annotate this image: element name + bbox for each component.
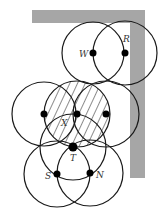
node-r [122, 50, 129, 57]
label-t: T [70, 153, 77, 163]
label-x: X [60, 118, 68, 128]
node-w [90, 50, 97, 57]
label-n: N [95, 170, 105, 180]
label-w: W [79, 49, 89, 59]
node-east [103, 111, 110, 118]
label-s: S [45, 171, 51, 181]
node-n [87, 170, 94, 177]
node-left [41, 111, 48, 118]
label-r: R [122, 34, 130, 44]
node-t [69, 143, 78, 152]
node-s [54, 171, 61, 178]
node-x [74, 111, 81, 118]
circle-coverage-diagram: W R X T S N [0, 0, 164, 214]
